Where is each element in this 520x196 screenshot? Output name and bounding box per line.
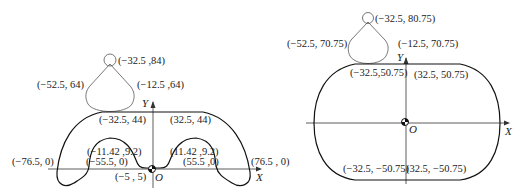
x-axis-label: X: [504, 125, 513, 137]
label-outer-right: (76.5 , 0): [251, 156, 290, 168]
label-bottom-left: (−32.5, −50.75): [343, 163, 410, 175]
label-top-left: (−32.5,50.75): [350, 67, 408, 79]
y-axis-arrow-icon: [404, 57, 409, 64]
label-arm-left: (−52.5, 64): [37, 79, 85, 91]
small-circle: [363, 13, 374, 24]
label-circle-top: (−32.5 ,84): [118, 55, 166, 67]
label-outer-left: (−76.5, 0): [12, 156, 54, 168]
x-axis-label: X: [255, 171, 264, 183]
label-inner-right: (55.5 ,0): [183, 156, 219, 168]
label-inner-left: (−55.5, 0): [86, 156, 128, 168]
label-top-left: (−32.5, 44): [99, 114, 147, 126]
label-top-right: (32.5, 50.75): [414, 69, 469, 81]
label-center: (−5 , 5): [115, 171, 147, 183]
y-axis-label: Y: [142, 97, 150, 109]
diagram-canvas: X Y O (−32.5 ,84) (−52.5, 64) (−12.5 ,64…: [0, 0, 520, 196]
outer-profile: [57, 112, 250, 185]
label-arm-left: (−52.5, 70.75): [287, 38, 348, 50]
label-arm-right: (−12.5, 70.75): [398, 38, 459, 50]
left-diagram: X Y O (−32.5 ,84) (−52.5, 64) (−12.5 ,64…: [12, 54, 290, 188]
origin-label: O: [409, 123, 417, 135]
origin-label: O: [155, 171, 163, 183]
y-axis-arrow-icon: [151, 101, 156, 108]
label-top-right: (32.5, 44): [170, 114, 212, 126]
y-axis-label: Y: [397, 51, 405, 63]
label-circle-top: (−32.5, 80.75): [375, 13, 436, 25]
right-diagram: X Y O (−32.5, 80.75) (−52.5, 70.75) (−12…: [287, 13, 513, 185]
label-bottom-right: (32.5, −50.75): [406, 163, 467, 175]
arm-outline: [348, 22, 388, 64]
arm-outline: [86, 64, 134, 112]
label-arm-right: (−12.5 ,64): [137, 79, 185, 91]
